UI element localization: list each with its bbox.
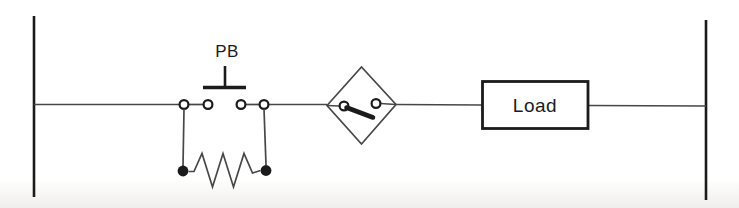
- switch-contact: [372, 99, 381, 108]
- load-label: Load: [513, 95, 557, 116]
- ladder-diagram-canvas: PB Load: [0, 0, 739, 208]
- junction-dot: [178, 166, 189, 177]
- circuit-diagram: PB Load: [0, 0, 739, 208]
- inner-wire: [327, 106, 340, 107]
- pushbutton-label: PB: [215, 42, 239, 61]
- contact-terminal: [237, 100, 246, 109]
- resistor-zigzag: [189, 154, 261, 188]
- junction-dot: [261, 165, 272, 176]
- rung-wire: [34, 105, 706, 107]
- switch-blade: [347, 108, 374, 118]
- branch-wire: [264, 109, 266, 165]
- contact-terminal: [204, 100, 213, 109]
- pushbutton-no-contact: PB: [180, 42, 269, 109]
- inner-wire: [381, 104, 397, 105]
- wire-segment: [396, 105, 482, 106]
- parallel-resistor-branch: [178, 109, 272, 187]
- branch-wire: [183, 109, 184, 166]
- contact-terminal: [180, 100, 189, 109]
- load-box: Load: [483, 82, 589, 129]
- wire-segment: [588, 106, 706, 107]
- switch-in-diamond: [327, 67, 396, 144]
- contact-terminal: [260, 100, 269, 109]
